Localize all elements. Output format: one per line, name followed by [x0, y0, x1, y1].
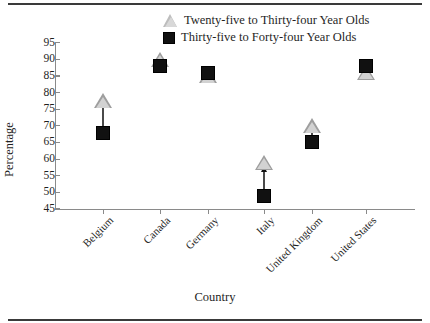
y-tick-label-text: 70 [29, 120, 55, 132]
x-axis-line [55, 209, 415, 210]
y-tick-mark [55, 159, 60, 160]
y-tick-label: 90 [0, 53, 55, 65]
legend-label-25-34: Twenty-five to Thirty-four Year Olds [184, 14, 369, 27]
x-tick-label-italy: Italy [254, 214, 277, 237]
y-tick-mark [55, 109, 60, 110]
marker-square-canada [153, 59, 167, 73]
x-tick-mark [103, 209, 104, 214]
y-tick-label-text: 45 [29, 203, 55, 215]
marker-square-belgium [96, 126, 110, 140]
legend-item-35-44: Thirty-five to Forty-four Year Olds [163, 29, 369, 46]
marker-square-germany [201, 66, 215, 80]
x-tick-label-belgium: Belgium [80, 214, 115, 249]
y-tick-mark [55, 92, 60, 93]
y-tick-label-text: 60 [29, 153, 55, 165]
chart-figure: 9590858075706560555045 BelgiumCanadaGerm… [0, 0, 430, 323]
y-tick-mark [55, 75, 60, 76]
x-tick-mark [160, 209, 161, 214]
square-marker-icon [163, 32, 175, 44]
x-tick-label-canada: Canada [141, 214, 173, 246]
y-tick-mark [55, 42, 60, 43]
y-tick-label-text: 80 [29, 87, 55, 99]
x-tick-label-united-states: United States [328, 214, 378, 264]
marker-square-united-kingdom [305, 135, 319, 149]
y-tick-label-text: 75 [29, 103, 55, 115]
y-tick-label: 95 [0, 37, 55, 49]
y-tick-mark [55, 125, 60, 126]
x-tick-label-germany: Germany [183, 214, 220, 251]
marker-square-italy [257, 189, 271, 203]
y-tick-mark [55, 208, 60, 209]
y-tick-label: 85 [0, 70, 55, 82]
chart-legend: Twenty-five to Thirty-four Year Olds Thi… [163, 12, 369, 46]
y-tick-mark [55, 59, 60, 60]
y-tick-mark [55, 175, 60, 176]
y-tick-label-text: 65 [29, 136, 55, 148]
marker-triangle-fill [257, 158, 271, 169]
legend-item-25-34: Twenty-five to Thirty-four Year Olds [163, 12, 369, 29]
marker-square-united-states [359, 59, 373, 73]
y-axis-title: Percentage [2, 88, 16, 208]
y-tick-label-text: 90 [29, 53, 55, 65]
x-tick-mark [264, 209, 265, 214]
y-tick-mark [55, 192, 60, 193]
legend-label-35-44: Thirty-five to Forty-four Year Olds [181, 31, 356, 44]
y-axis-title-text: Percentage [2, 90, 17, 210]
x-tick-mark [312, 209, 313, 214]
y-tick-label-text: 95 [29, 37, 55, 49]
x-axis-title: Country [0, 290, 430, 305]
y-tick-label-text: 55 [29, 170, 55, 182]
y-tick-label-text: 50 [29, 186, 55, 198]
marker-triangle-fill [96, 97, 110, 108]
y-tick-mark [55, 142, 60, 143]
x-tick-mark [208, 209, 209, 214]
plot-area: 9590858075706560555045 BelgiumCanadaGerm… [0, 0, 430, 323]
x-tick-mark [366, 209, 367, 214]
y-tick-label-text: 85 [29, 70, 55, 82]
triangle-marker-icon [163, 14, 178, 27]
marker-triangle-fill [305, 122, 319, 133]
